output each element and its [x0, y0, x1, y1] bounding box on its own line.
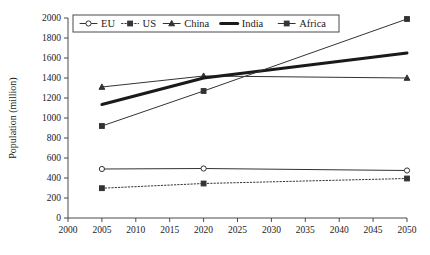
- x-axis-ticks: 2000200520102015202020252030203520402045…: [59, 218, 417, 235]
- y-tick-label: 1200: [42, 93, 61, 103]
- series-line-eu: [102, 169, 407, 171]
- y-tick-label: 1000: [42, 113, 61, 123]
- series-line-us: [102, 179, 407, 189]
- y-axis-title: Population (million): [7, 77, 19, 158]
- x-tick-label: 2045: [364, 225, 383, 235]
- x-tick-label: 2000: [59, 225, 78, 235]
- legend-label-us: US: [143, 18, 157, 29]
- x-tick-label: 2020: [194, 225, 213, 235]
- x-tick-label: 2035: [296, 225, 315, 235]
- y-tick-label: 800: [47, 133, 62, 143]
- axis-lines: [68, 18, 407, 218]
- legend-label-eu: EU: [101, 18, 115, 29]
- legend-marker-africa: [284, 21, 289, 26]
- y-tick-label: 200: [47, 193, 62, 203]
- data-point-eu: [404, 168, 409, 173]
- data-point-eu: [99, 166, 104, 171]
- y-tick-label: 400: [47, 173, 62, 183]
- series-line-india: [102, 53, 407, 105]
- y-tick-label: 1400: [42, 73, 61, 83]
- y-tick-label: 600: [47, 153, 62, 163]
- data-series-group: [99, 17, 410, 191]
- data-point-africa: [405, 17, 410, 22]
- legend-label-china: China: [184, 18, 209, 29]
- data-point-us: [405, 176, 410, 181]
- x-tick-label: 2005: [92, 225, 111, 235]
- data-point-africa: [100, 124, 105, 129]
- x-tick-label: 2030: [262, 225, 281, 235]
- y-tick-label: 0: [56, 213, 61, 223]
- x-tick-label: 2050: [398, 225, 417, 235]
- series-line-china: [102, 76, 407, 87]
- chart-legend: EUUSChinaIndiaAfrica: [73, 15, 339, 32]
- y-tick-label: 1800: [42, 33, 61, 43]
- data-point-us: [201, 181, 206, 186]
- series-line-africa: [102, 19, 407, 126]
- legend-label-africa: Africa: [299, 18, 326, 29]
- x-tick-label: 2040: [330, 225, 349, 235]
- y-axis-title-text: Population (million): [7, 77, 19, 158]
- legend-marker-us: [128, 21, 133, 26]
- y-axis-ticks: 0200400600800100012001400160018002000: [42, 13, 68, 223]
- x-tick-label: 2010: [126, 225, 145, 235]
- chart-figure: Population (million) 0200400600800100012…: [0, 0, 430, 255]
- data-point-eu: [201, 166, 206, 171]
- y-tick-label: 2000: [42, 13, 61, 23]
- line-chart-canvas: Population (million) 0200400600800100012…: [0, 0, 430, 255]
- x-tick-label: 2015: [160, 225, 179, 235]
- legend-label-india: India: [242, 18, 264, 29]
- legend-marker-eu: [86, 21, 91, 26]
- x-tick-label: 2025: [228, 225, 247, 235]
- axis-frame: [68, 18, 407, 218]
- data-point-africa: [201, 89, 206, 94]
- data-point-us: [100, 186, 105, 191]
- y-tick-label: 1600: [42, 53, 61, 63]
